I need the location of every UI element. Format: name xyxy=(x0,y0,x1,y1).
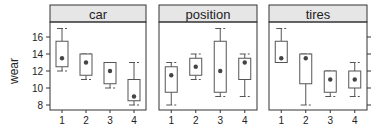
left-y-axis: 810121416 xyxy=(32,32,50,111)
box-car-1 xyxy=(56,29,68,72)
median-dot xyxy=(328,77,332,81)
median-dot xyxy=(279,56,283,60)
x-tick-label: 4 xyxy=(131,115,137,126)
right-y-axis xyxy=(367,37,371,105)
box-car-3 xyxy=(104,63,116,89)
box-position-1 xyxy=(165,63,177,106)
median-dot xyxy=(108,69,112,73)
median-dot xyxy=(353,77,357,81)
box-tires-2 xyxy=(300,54,312,105)
y-tick-label: 10 xyxy=(32,83,44,94)
panel-position: position1234 xyxy=(159,5,257,126)
median-dot xyxy=(169,73,173,77)
box-car-4 xyxy=(128,63,140,106)
median-dot xyxy=(84,60,88,64)
x-tick-label: 1 xyxy=(59,115,65,126)
x-tick-label: 3 xyxy=(217,115,223,126)
iqr-box xyxy=(56,41,68,67)
x-tick-label: 2 xyxy=(83,115,89,126)
iqr-box xyxy=(165,67,177,93)
median-dot xyxy=(218,69,222,73)
y-axis-title: wear xyxy=(7,58,21,85)
median-dot xyxy=(60,56,64,60)
median-dot xyxy=(132,94,136,98)
box-tires-1 xyxy=(275,29,287,63)
trellis-boxplot-chart: wear 810121416 car1234position1234tires1… xyxy=(0,0,383,130)
y-axis-label: wear xyxy=(7,58,21,85)
box-tires-4 xyxy=(349,63,361,97)
strip-label: tires xyxy=(306,7,331,22)
median-dot xyxy=(194,65,198,69)
y-tick-label: 16 xyxy=(32,32,44,43)
median-dot xyxy=(304,56,308,60)
box-position-2 xyxy=(190,54,202,80)
box-position-3 xyxy=(214,29,226,97)
y-tick-label: 12 xyxy=(32,66,44,77)
x-tick-label: 4 xyxy=(352,115,358,126)
strip-label: position xyxy=(186,7,231,22)
box-car-2 xyxy=(80,54,92,80)
panels: car1234position1234tires1234 xyxy=(50,5,367,126)
median-dot xyxy=(243,60,247,64)
x-tick-label: 3 xyxy=(107,115,113,126)
y-tick-label: 8 xyxy=(37,100,43,111)
x-tick-label: 1 xyxy=(278,115,284,126)
box-position-4 xyxy=(239,54,251,97)
strip-label: car xyxy=(89,7,108,22)
panel-tires: tires1234 xyxy=(269,5,367,126)
panel-car: car1234 xyxy=(50,5,146,126)
box-tires-3 xyxy=(324,71,336,97)
x-tick-label: 4 xyxy=(242,115,248,126)
x-tick-label: 3 xyxy=(327,115,333,126)
x-tick-label: 1 xyxy=(168,115,174,126)
x-tick-label: 2 xyxy=(193,115,199,126)
iqr-box xyxy=(214,41,226,92)
y-tick-label: 14 xyxy=(32,49,44,60)
x-tick-label: 2 xyxy=(303,115,309,126)
